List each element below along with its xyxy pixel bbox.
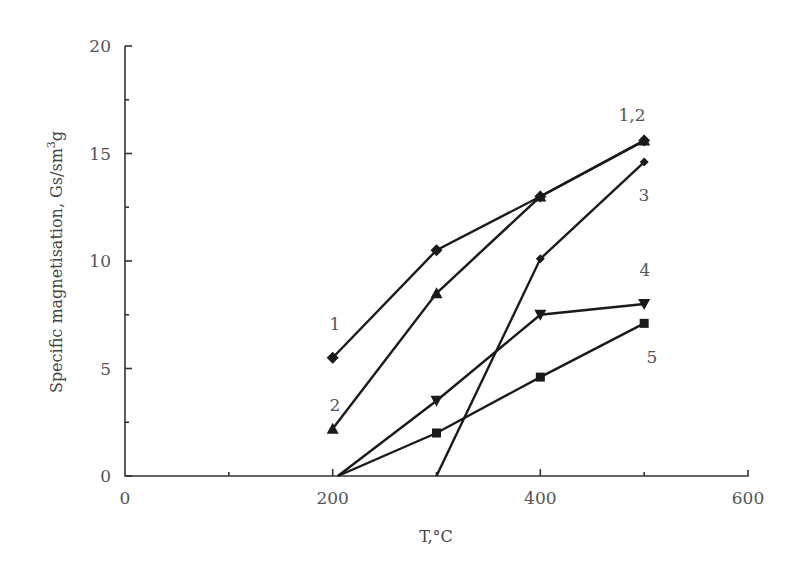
square-marker-icon [640,319,649,328]
y-tick-label: 15 [89,144,111,164]
square-marker-icon [432,429,441,438]
series-line [338,304,644,476]
line-chart: 051015200200400600 121,2345 T,°C Specifi… [0,0,804,570]
series-label: 3 [639,185,650,205]
y-axis-title: Specific magnetisation, Gs/sm3g [45,131,66,393]
square-marker-icon [536,373,545,382]
series-label: 1 [330,314,341,334]
series-5 [338,319,649,476]
y-tick-label: 10 [89,251,111,271]
series-line [333,141,645,429]
axis-lines [125,46,748,476]
x-tick-label: 200 [316,488,348,508]
series-3 [437,158,649,476]
x-tick-label: 600 [732,488,764,508]
y-tick-label: 5 [100,359,111,379]
series-label: 1,2 [618,105,645,125]
series-label: 2 [330,395,341,415]
x-tick-label: 0 [120,488,131,508]
series-4 [338,299,650,476]
series-2 [327,135,651,434]
series-label: 4 [640,260,651,280]
y-tick-label: 20 [89,36,111,56]
series-1 [327,135,651,364]
series-line [333,141,645,358]
series-line [338,323,644,476]
series-label: 5 [647,347,658,367]
series-group [327,135,651,476]
x-tick-label: 400 [524,488,556,508]
x-axis-title: T,°C [419,527,453,546]
y-tick-label: 0 [100,466,111,486]
